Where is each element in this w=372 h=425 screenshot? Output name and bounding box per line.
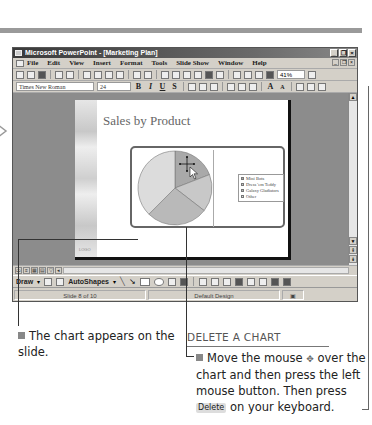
line-tool-icon[interactable]: ╲: [120, 277, 125, 286]
line-style-icon[interactable]: [235, 278, 243, 286]
scroll-down-arrow-icon[interactable]: ▼: [349, 237, 357, 245]
promote-icon[interactable]: [296, 83, 304, 91]
menu-insert[interactable]: Insert: [93, 58, 111, 68]
caption-delete-step: Move the mouse ✥ over the chart and then…: [196, 350, 366, 415]
print-icon[interactable]: [55, 71, 63, 79]
copy-icon[interactable]: [94, 71, 102, 79]
doc-close-button[interactable]: ×: [348, 59, 355, 66]
toolbar-separator: [156, 70, 157, 79]
slide-canvas[interactable]: Sales by Product: [75, 100, 291, 260]
chart-legend[interactable]: Mini Bots Dress 'em Teddy Galaxy Gladiat…: [238, 174, 284, 202]
slide-show-icon[interactable]: ▽: [47, 267, 54, 274]
italic-button[interactable]: I: [146, 82, 155, 91]
black-white-icon[interactable]: [266, 71, 274, 79]
zoom-select[interactable]: 41%: [277, 70, 305, 79]
tables-borders-icon[interactable]: [183, 71, 191, 79]
demote-icon[interactable]: [307, 83, 315, 91]
vertical-scrollbar[interactable]: ▲ ▼ ⇞ ⇟: [348, 93, 357, 265]
minimize-button[interactable]: _: [330, 49, 338, 57]
toolbar-separator: [228, 70, 229, 79]
restore-button[interactable]: ❐: [339, 49, 347, 57]
menu-tools[interactable]: Tools: [151, 58, 167, 68]
line-color-icon[interactable]: [211, 278, 219, 286]
format-painter-icon[interactable]: [116, 71, 124, 79]
underline-button[interactable]: U: [158, 82, 167, 91]
pie-chart[interactable]: [136, 150, 214, 227]
free-rotate-icon[interactable]: [56, 278, 64, 286]
insert-table-icon[interactable]: [194, 71, 202, 79]
chart-plot-area[interactable]: [136, 150, 214, 227]
shadow-icon[interactable]: [271, 278, 279, 286]
rectangle-tool-icon[interactable]: [140, 278, 150, 286]
new-icon[interactable]: [16, 71, 24, 79]
previous-slide-icon[interactable]: ⇞: [349, 246, 357, 254]
shadow-button[interactable]: S: [170, 82, 179, 91]
web-toolbar-icon[interactable]: [172, 71, 180, 79]
menu-view[interactable]: View: [69, 58, 84, 68]
fill-color-icon[interactable]: [199, 278, 207, 286]
outline-view-icon[interactable]: ≡: [23, 267, 30, 274]
document-icon[interactable]: [16, 60, 24, 67]
horizontal-scrollbar[interactable]: [63, 267, 349, 274]
menu-bar: File Edit View Insert Format Tools Slide…: [13, 58, 357, 69]
numbering-icon[interactable]: [227, 83, 235, 91]
align-right-icon[interactable]: [210, 83, 218, 91]
show-formatting-icon[interactable]: [244, 71, 252, 79]
cut-icon[interactable]: [83, 71, 91, 79]
menu-format[interactable]: Format: [120, 58, 143, 68]
next-slide-icon[interactable]: ⇟: [349, 255, 357, 263]
menu-file[interactable]: File: [27, 58, 38, 68]
menu-help[interactable]: Help: [252, 58, 266, 68]
bold-button[interactable]: B: [134, 82, 143, 91]
scroll-left-arrow-icon[interactable]: ◂: [55, 267, 62, 274]
3d-icon[interactable]: [283, 278, 291, 286]
undo-icon[interactable]: [133, 71, 141, 79]
close-button[interactable]: ×: [348, 49, 356, 57]
center-icon[interactable]: [199, 83, 207, 91]
doc-minimize-button[interactable]: _: [332, 59, 339, 66]
callout-line-left: [18, 239, 138, 240]
animation-effects-icon[interactable]: [318, 83, 326, 91]
save-icon[interactable]: [38, 71, 46, 79]
menu-window[interactable]: Window: [218, 58, 243, 68]
increase-font-size-icon[interactable]: A: [266, 82, 275, 91]
arrow-style-icon[interactable]: [259, 278, 267, 286]
page-header-band: [0, 28, 362, 33]
bullets-icon[interactable]: [238, 83, 246, 91]
open-icon[interactable]: [27, 71, 35, 79]
dash-style-icon[interactable]: [247, 278, 255, 286]
decrease-font-size-icon[interactable]: A: [278, 84, 287, 90]
slide-title[interactable]: Sales by Product: [103, 113, 190, 129]
legend-swatch: [241, 183, 244, 186]
design-template-status: Default Design: [148, 290, 280, 300]
font-name-select[interactable]: Times New Roman: [16, 82, 94, 91]
select-objects-icon[interactable]: [44, 278, 52, 286]
increase-paragraph-spacing-icon[interactable]: [249, 83, 257, 91]
new-slide-icon[interactable]: [216, 71, 224, 79]
font-color-icon[interactable]: [223, 278, 231, 286]
chart-object[interactable]: Mini Bots Dress 'em Teddy Galaxy Gladiat…: [130, 146, 285, 228]
callout-line-right: [186, 356, 194, 357]
grayscale-icon[interactable]: [255, 71, 263, 79]
paste-icon[interactable]: [105, 71, 113, 79]
arrow-tool-icon[interactable]: ↘: [129, 277, 136, 286]
insert-chart-icon[interactable]: [205, 71, 213, 79]
slide-sorter-view-icon[interactable]: ▤: [39, 267, 46, 274]
hyperlink-icon[interactable]: [161, 71, 169, 79]
toolbar-separator: [261, 82, 262, 91]
menu-edit[interactable]: Edit: [47, 58, 60, 68]
scroll-up-arrow-icon[interactable]: ▲: [349, 93, 357, 101]
font-size-select[interactable]: 24: [97, 82, 131, 91]
expand-slide-icon[interactable]: [233, 71, 241, 79]
text-box-icon[interactable]: [168, 278, 176, 286]
oval-tool-icon[interactable]: [154, 278, 164, 286]
redo-icon[interactable]: [144, 71, 152, 79]
slide-view-icon[interactable]: ▦: [31, 267, 38, 274]
spelling-icon[interactable]: [66, 71, 74, 79]
office-assistant-icon[interactable]: [308, 71, 316, 79]
align-left-icon[interactable]: [188, 83, 196, 91]
doc-restore-button[interactable]: ❐: [340, 59, 347, 66]
menu-slide-show[interactable]: Slide Show: [176, 58, 209, 68]
autoshapes-menu-button[interactable]: AutoShapes: [68, 278, 109, 285]
section-bracket-line: [368, 86, 369, 410]
